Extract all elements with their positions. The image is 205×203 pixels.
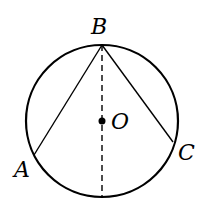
- segment-ba: [34, 45, 102, 155]
- label-a: A: [12, 157, 30, 182]
- label-o: O: [111, 109, 129, 134]
- label-b: B: [90, 14, 107, 39]
- center-point-o: [99, 118, 106, 125]
- label-c: C: [178, 140, 195, 165]
- geometry-diagram: B A C O: [0, 0, 205, 203]
